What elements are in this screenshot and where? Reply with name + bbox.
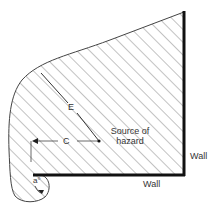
label-angle: a°: [33, 176, 41, 186]
label-e: E: [68, 102, 74, 112]
hazard-zone-area: [9, 12, 184, 202]
label-source-line1: Source of: [104, 126, 156, 136]
label-c: C: [63, 136, 70, 146]
source-point: [97, 139, 100, 142]
label-wall-bottom: Wall: [143, 179, 160, 189]
label-source-of-hazard: Source of hazard: [104, 126, 156, 146]
label-source-line2: hazard: [104, 136, 156, 146]
label-wall-right: Wall: [190, 151, 207, 161]
